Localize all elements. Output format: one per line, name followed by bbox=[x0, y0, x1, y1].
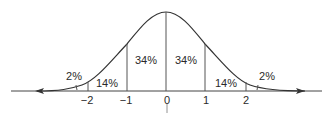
normal-distribution-diagram: 2% 14% 34% 34% 14% 2% −2 −1 0 1 2 bbox=[0, 0, 329, 120]
region-label: 2% bbox=[66, 70, 82, 82]
region-label: 2% bbox=[259, 70, 275, 82]
axis-tick-label: 1 bbox=[203, 94, 209, 106]
region-label: 14% bbox=[96, 77, 118, 89]
axis-tick-label: −1 bbox=[120, 94, 133, 106]
tail-tick-right bbox=[257, 85, 258, 90]
region-label: 34% bbox=[135, 54, 157, 66]
axis-tick-label: −2 bbox=[81, 94, 94, 106]
axis-tick-label: 0 bbox=[164, 94, 170, 106]
tail-tick-left bbox=[76, 85, 77, 90]
axis-tick-label: 2 bbox=[243, 94, 249, 106]
region-label: 14% bbox=[215, 77, 237, 89]
region-label: 34% bbox=[175, 54, 197, 66]
